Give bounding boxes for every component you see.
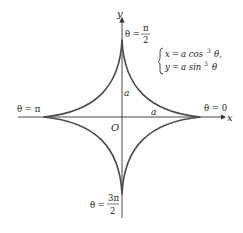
svg-text:θ =: θ =: [90, 200, 105, 210]
svg-text:3: 3: [207, 47, 211, 54]
svg-text:3π: 3π: [108, 193, 119, 203]
horizontal-a-label: a: [151, 107, 156, 117]
astroid-diagram: y x O a a θ = 0 θ = π θ = π 2 θ = 3π 2 x…: [0, 0, 243, 233]
origin-label: O: [111, 122, 119, 133]
vertical-a-label: a: [124, 88, 129, 98]
svg-text:2: 2: [143, 35, 148, 45]
top-cusp-label: θ = π 2: [125, 23, 150, 45]
right-cusp-label: θ = 0: [204, 103, 227, 113]
x-axis-label: x: [227, 112, 233, 123]
svg-text:=: =: [172, 62, 179, 72]
parametric-equations: x = a cos 3 θ, y = a sin 3 θ: [158, 47, 222, 74]
svg-text:=: =: [172, 49, 179, 59]
svg-text:y: y: [164, 62, 170, 72]
svg-text:2: 2: [110, 206, 115, 216]
svg-text:θ,: θ,: [214, 49, 222, 59]
svg-text:x: x: [165, 49, 170, 59]
svg-text:3: 3: [204, 60, 208, 67]
svg-text:π: π: [143, 23, 149, 33]
bottom-cusp-label: θ = 3π 2: [90, 193, 119, 216]
left-cusp-label: θ = π: [17, 104, 41, 114]
svg-text:a cos: a cos: [181, 49, 204, 59]
svg-text:θ: θ: [212, 62, 217, 72]
y-axis-label: y: [116, 8, 123, 19]
svg-text:θ =: θ =: [125, 29, 140, 39]
svg-text:a sin: a sin: [181, 62, 201, 72]
